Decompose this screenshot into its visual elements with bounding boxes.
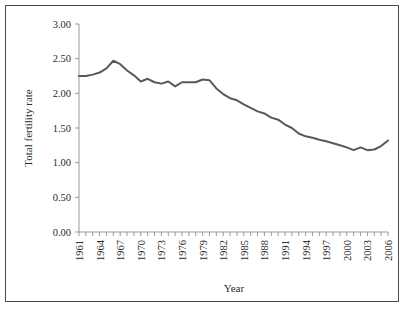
x-axis-tick-label: 2006 <box>383 240 394 261</box>
x-axis-tick-label: 1982 <box>218 240 229 261</box>
line-chart-svg: 0.000.501.001.502.002.503.00 19611964196… <box>6 6 400 303</box>
y-axis-tick-label: 2.50 <box>53 53 71 64</box>
x-axis-title: Year <box>224 282 245 294</box>
x-axis-tick-label: 1988 <box>259 240 270 261</box>
x-axis-tick-label: 2003 <box>362 240 373 261</box>
x-axis-tick-label: 1997 <box>321 240 332 261</box>
x-axis-tick-label: 1967 <box>115 240 126 261</box>
chart-figure: 0.000.501.001.502.002.503.00 19611964196… <box>5 5 399 302</box>
x-axis-tick-label: 1976 <box>177 240 188 261</box>
x-axis-tick-label: 1985 <box>239 240 250 261</box>
x-axis-tick-label: 1964 <box>95 239 106 261</box>
y-axis-tick-labels: 0.000.501.001.502.002.503.00 <box>53 19 71 238</box>
x-axis-tick-labels: 1961196419671970197319761979198219851988… <box>74 239 394 261</box>
plot-area: 0.000.501.001.502.002.503.00 19611964196… <box>6 6 400 303</box>
fertility-rate-line <box>79 61 388 150</box>
x-axis-ticks <box>79 232 388 236</box>
x-axis-tick-label: 1970 <box>136 240 147 261</box>
y-axis-tick-label: 0.00 <box>53 227 71 238</box>
y-axis-tick-label: 1.50 <box>53 123 71 134</box>
y-axis-ticks <box>75 24 79 232</box>
x-axis-tick-label: 2000 <box>342 240 353 261</box>
y-axis-tick-label: 2.00 <box>53 88 71 99</box>
y-axis-tick-label: 1.00 <box>53 157 71 168</box>
x-axis-tick-label: 1991 <box>280 240 291 261</box>
x-axis-tick-label: 1994 <box>301 239 312 261</box>
x-axis-tick-label: 1961 <box>74 240 85 261</box>
y-axis-tick-label: 3.00 <box>53 19 71 30</box>
y-axis-title: Total fertility rate <box>22 89 34 167</box>
x-axis-tick-label: 1973 <box>156 240 167 261</box>
y-axis-tick-label: 0.50 <box>53 192 71 203</box>
x-axis-tick-label: 1979 <box>198 240 209 261</box>
